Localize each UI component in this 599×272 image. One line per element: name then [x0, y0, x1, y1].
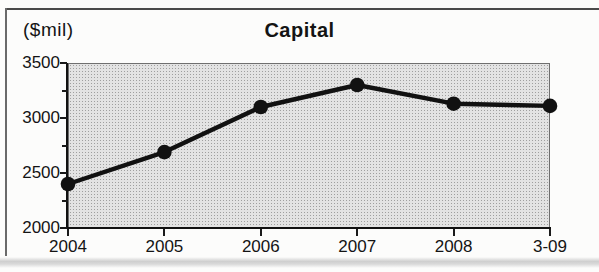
plot-area [68, 63, 550, 228]
x-tick [67, 229, 69, 236]
x-tick [163, 229, 165, 236]
y-tick-label: 2000 [8, 219, 60, 237]
scanned-capital-chart: ($mil) Capital 2000250030003500200420052… [0, 0, 599, 272]
chart-title: Capital [0, 19, 599, 42]
y-major-tick [60, 227, 67, 229]
scan-border-left [5, 8, 7, 256]
scan-border-top [5, 8, 599, 10]
y-major-tick [60, 117, 67, 119]
scan-artifact-band [0, 257, 599, 268]
x-tick [549, 229, 551, 236]
x-tick-label: 2007 [325, 238, 389, 256]
y-tick-label: 3500 [8, 54, 60, 72]
x-tick-label: 3-09 [518, 238, 582, 256]
x-axis-line [66, 227, 551, 229]
y-major-tick [60, 62, 67, 64]
x-tick-label: 2008 [422, 238, 486, 256]
y-tick-label: 2500 [8, 164, 60, 182]
y-minor-tick [62, 200, 68, 202]
y-minor-tick [62, 90, 68, 92]
x-tick [356, 229, 358, 236]
x-tick [453, 229, 455, 236]
x-tick-label: 2005 [132, 238, 196, 256]
x-tick-label: 2004 [36, 238, 100, 256]
y-major-tick [60, 172, 67, 174]
x-tick [260, 229, 262, 236]
x-tick-label: 2006 [229, 238, 293, 256]
y-minor-tick [62, 145, 68, 147]
y-tick-label: 3000 [8, 109, 60, 127]
